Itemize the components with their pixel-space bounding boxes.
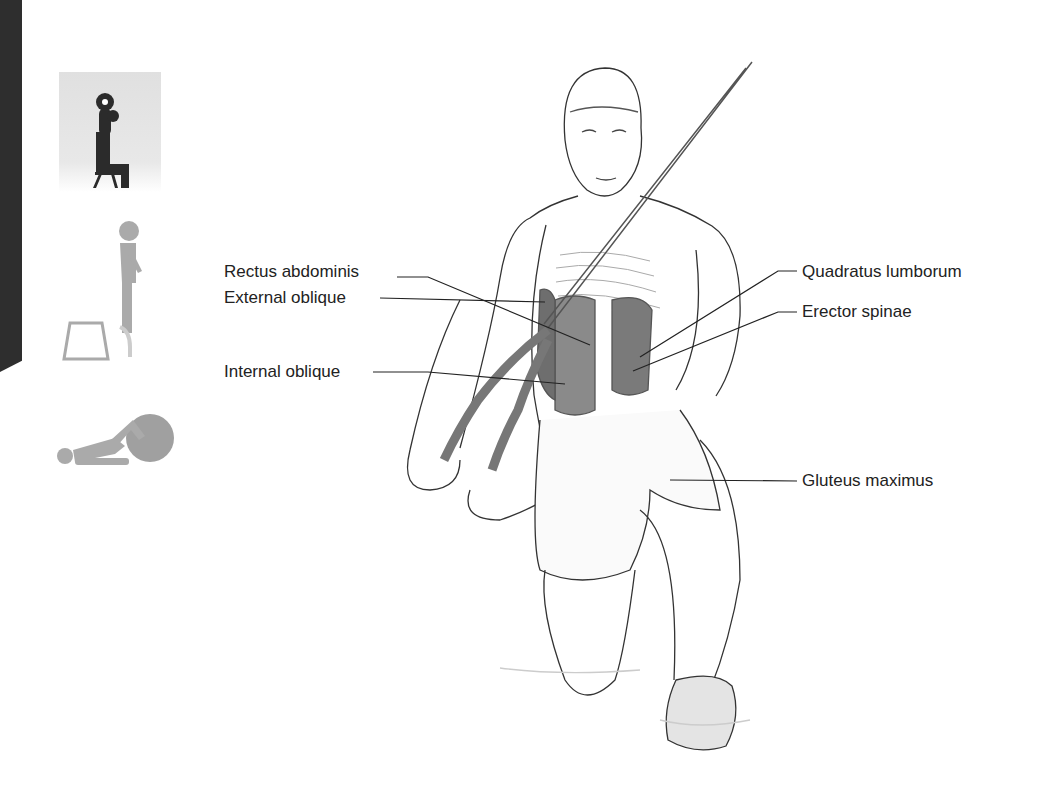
erector-spinae-muscle	[612, 298, 652, 395]
label-rectus-abdominis: Rectus abdominis	[224, 262, 359, 282]
label-internal-oblique: Internal oblique	[224, 362, 340, 382]
head-outline	[564, 68, 641, 196]
anatomy-figure-illustration	[0, 0, 1056, 800]
leader-external-oblique	[380, 298, 545, 302]
label-erector-spinae: Erector spinae	[802, 302, 912, 322]
rectus-abdominis-muscle	[555, 296, 595, 415]
rope-left	[444, 330, 548, 460]
leader-erector-spinae	[633, 312, 797, 371]
label-external-oblique: External oblique	[224, 288, 346, 308]
label-gluteus-maximus: Gluteus maximus	[802, 471, 933, 491]
shoe	[666, 676, 736, 750]
label-quadratus-lumborum: Quadratus lumborum	[802, 262, 962, 282]
